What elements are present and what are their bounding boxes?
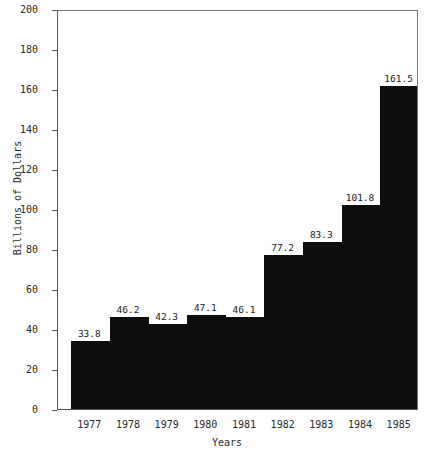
bar bbox=[303, 242, 342, 409]
bar-value-label: 101.8 bbox=[346, 193, 375, 203]
bar-chart: 020406080100120140160180200 Billions of … bbox=[0, 0, 432, 464]
bar-value-label: 46.2 bbox=[117, 305, 140, 315]
x-axis-tick-labels: 197719781979198019811982198319841985 bbox=[0, 419, 432, 435]
x-axis-tick-label: 1980 bbox=[193, 419, 217, 431]
bar bbox=[342, 205, 381, 409]
x-axis-tick-label: 1982 bbox=[271, 419, 295, 431]
bar bbox=[148, 324, 187, 409]
bar bbox=[110, 317, 149, 409]
bar-value-label: 42.3 bbox=[155, 312, 178, 322]
y-axis-tick-label: 80 bbox=[26, 245, 38, 255]
plot-area bbox=[57, 10, 418, 410]
bar-value-label: 33.8 bbox=[78, 329, 101, 339]
x-axis-tick-label: 1984 bbox=[348, 419, 372, 431]
bar bbox=[226, 317, 265, 409]
y-axis-title: Billions of Dollars bbox=[12, 128, 24, 268]
y-axis-tick-labels: 020406080100120140160180200 bbox=[0, 0, 52, 464]
bar-value-label: 47.1 bbox=[194, 303, 217, 313]
y-axis-tick-label: 0 bbox=[32, 405, 38, 415]
bar bbox=[380, 86, 418, 409]
bar-value-label: 46.1 bbox=[233, 305, 256, 315]
x-axis-tick-label: 1981 bbox=[232, 419, 256, 431]
bar-value-label: 77.2 bbox=[271, 243, 294, 253]
y-axis-tick-label: 160 bbox=[20, 85, 38, 95]
y-axis-tick-label: 60 bbox=[26, 285, 38, 295]
x-axis-tick-label: 1985 bbox=[387, 419, 411, 431]
x-axis-tick-label: 1979 bbox=[155, 419, 179, 431]
bar bbox=[187, 315, 226, 409]
x-axis-tick-label: 1983 bbox=[309, 419, 333, 431]
x-axis-tick-label: 1978 bbox=[116, 419, 140, 431]
y-axis-tick-label: 200 bbox=[20, 5, 38, 15]
y-axis-tick-label: 180 bbox=[20, 45, 38, 55]
bar-value-label: 161.5 bbox=[384, 74, 413, 84]
bar bbox=[71, 341, 110, 409]
y-axis-tick-mark bbox=[52, 410, 57, 411]
bars-layer bbox=[58, 11, 417, 409]
y-axis-tick-label: 20 bbox=[26, 365, 38, 375]
x-axis-title: Years bbox=[0, 437, 432, 449]
bar bbox=[264, 255, 303, 409]
y-axis-tick-label: 40 bbox=[26, 325, 38, 335]
bar-value-label: 83.3 bbox=[310, 230, 333, 240]
x-axis-tick-label: 1977 bbox=[77, 419, 101, 431]
